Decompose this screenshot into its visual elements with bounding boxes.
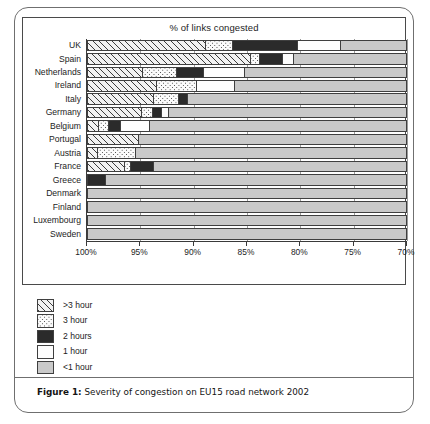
bar-segment-greece-2-hours [88,175,106,185]
tick-label-75: 75% [344,247,361,257]
tick-label-95: 95% [131,247,148,257]
tick-85 [246,241,247,246]
bar-segment-france--1-hour [154,162,407,172]
tick-90 [193,241,194,246]
legend-label: 3 hour [63,313,87,328]
bar-segment-spain--1-hour [294,54,407,64]
bar-segment-italy--1-hour [188,94,407,104]
plot-wrapper: UKSpainNetherlandsIrelandItalyGermanyBel… [23,39,407,264]
tick-75 [353,241,354,246]
bar-row-belgium [87,120,407,132]
bar-segment-uk-3-hour [206,41,233,51]
legend-label: 2 hours [63,329,92,344]
bar-segment-ireland-3-hour [157,81,196,91]
bar-segment-austria--1-hour [136,148,407,158]
tick-70 [406,241,407,246]
bar-segment-portugal--3-hour [88,135,139,145]
bar-row-spain [87,53,407,65]
figure-card: % of links congested UKSpainNetherlandsI… [14,7,414,413]
bar-row-portugal [87,134,407,146]
bar-segment-italy-2-hours [179,94,189,104]
bar-segment-germany-3-hour [142,108,153,118]
tick-label-85: 85% [238,247,255,257]
plot-canvas [86,39,407,241]
bar-segment-uk-2-hours [233,41,298,51]
bar-segment-austria-3-hour [98,148,136,158]
bar-segment-netherlands-1-hour [204,68,245,78]
category-label-portugal: Portugal [49,133,81,147]
legend-item: 2 hours [37,329,187,344]
caption-divider [15,377,413,378]
legend-swatch-3-hour [37,314,54,327]
bar-row-sweden [87,228,407,240]
bar-segment-spain--3-hour [88,54,251,64]
bar-segment-belgium--1-hour [150,121,407,131]
bar-segment-uk-1-hour [298,41,341,51]
bar-segment-netherlands--1-hour [245,68,407,78]
legend-item: 1 hour [37,344,187,359]
legend-item: 3 hour [37,313,187,328]
bar-segment-finland--1-hour [88,202,407,212]
legend-label: 1 hour [63,344,87,359]
bar-segment-denmark--1-hour [88,189,407,199]
bar-row-germany [87,107,407,119]
bar-row-ireland [87,80,407,92]
tick-80 [299,241,300,246]
legend-label: >3 hour [63,298,92,313]
bar-segment-germany-1-hour [162,108,169,118]
legend-swatch-2-hours [37,330,54,343]
category-label-finland: Finland [53,201,81,215]
bar-segment-austria--3-hour [88,148,98,158]
bar-segment-belgium-3-hour [99,121,110,131]
tick-label-80: 80% [291,247,308,257]
legend-swatch--3-hour [37,299,54,312]
category-label-sweden: Sweden [50,228,81,242]
tick-label-100: 100% [75,247,96,257]
chart-area: % of links congested UKSpainNetherlandsI… [22,17,406,285]
category-label-spain: Spain [59,53,81,67]
bar-row-denmark [87,188,407,200]
category-label-ireland: Ireland [55,79,81,93]
bar-segment-germany--3-hour [88,108,142,118]
tick-100 [86,241,87,246]
category-label-denmark: Denmark [46,187,81,201]
bar-segment-belgium-2-hours [109,121,121,131]
figure-caption-text: Severity of congestion on EU15 road netw… [82,387,309,397]
bar-segment-belgium-1-hour [121,121,150,131]
bar-segment-ireland--1-hour [235,81,407,91]
category-label-austria: Austria [54,147,81,161]
category-label-belgium: Belgium [50,120,81,134]
chart-title: % of links congested [23,22,405,33]
chart-legend: >3 hour3 hour2 hours1 hour<1 hour [37,298,187,375]
legend-item: <1 hour [37,360,187,375]
bar-row-finland [87,201,407,213]
legend-swatch-1-hour [37,345,54,358]
figure-caption-label: Figure 1: [37,387,82,397]
bar-segment-spain-2-hours [260,54,283,64]
category-axis-labels: UKSpainNetherlandsIrelandItalyGermanyBel… [23,39,85,241]
bar-segment-uk--1-hour [341,41,407,51]
tick-label-90: 90% [184,247,201,257]
legend-swatch--1-hour [37,361,54,374]
bar-segment-italy--3-hour [88,94,154,104]
bar-row-uk [87,40,407,52]
figure-caption: Figure 1: Severity of congestion on EU15… [37,387,309,397]
bar-segment-italy-3-hour [154,94,179,104]
legend-label: <1 hour [63,360,92,375]
bar-segment-uk--3-hour [88,41,206,51]
bar-row-austria [87,147,407,159]
bar-segment-germany-2-hours [153,108,162,118]
bar-segment-sweden--1-hour [88,229,407,239]
bar-row-france [87,161,407,173]
category-label-uk: UK [69,39,81,53]
bar-segment-netherlands--3-hour [88,68,143,78]
bar-segment-spain-3-hour [251,54,260,64]
bar-segment-ireland--3-hour [88,81,157,91]
category-label-france: France [54,160,81,174]
bar-row-italy [87,93,407,105]
tick-95 [139,241,140,246]
category-label-greece: Greece [53,174,81,188]
bar-segment-france--3-hour [88,162,125,172]
category-label-luxembourg: Luxembourg [33,214,81,228]
category-label-germany: Germany [46,106,81,120]
